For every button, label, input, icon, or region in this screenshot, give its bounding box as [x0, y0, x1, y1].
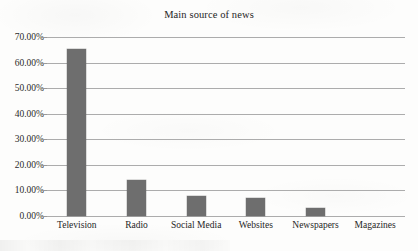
plot-area [47, 37, 405, 216]
gridline [47, 139, 405, 140]
gridline [47, 63, 405, 64]
x-axis-tick-label: Newspapers [292, 220, 338, 230]
bar-websites [246, 198, 265, 216]
bar-newspapers [306, 208, 325, 216]
bar-television [67, 49, 86, 216]
y-axis-tick-label: 20.00% [0, 160, 44, 170]
gridline [47, 88, 405, 89]
gridline [47, 216, 405, 217]
gridline [47, 114, 405, 115]
y-axis-tick-label: 70.00% [0, 32, 44, 42]
x-axis-tick-label: Television [57, 220, 96, 230]
chart-page: Main source of news 0.00%10.00%20.00%30.… [0, 0, 418, 251]
x-axis-tick-label: Social Media [171, 220, 221, 230]
chart-title: Main source of news [0, 9, 418, 20]
y-axis-tick-label: 0.00% [0, 211, 44, 221]
gridline [47, 190, 405, 191]
y-axis-tick-label: 50.00% [0, 83, 44, 93]
scan-artifact [0, 240, 230, 251]
bar-social-media [187, 196, 206, 216]
y-axis-tick-label: 30.00% [0, 134, 44, 144]
x-axis-tick-label: Magazines [355, 220, 396, 230]
bar-radio [127, 180, 146, 216]
y-axis-tick-label: 10.00% [0, 185, 44, 195]
x-axis-tick-label: Radio [125, 220, 148, 230]
y-axis-tick-label: 60.00% [0, 58, 44, 68]
x-axis-tick-label: Websites [239, 220, 273, 230]
y-axis-tick-label: 40.00% [0, 109, 44, 119]
gridline [47, 37, 405, 38]
gridline [47, 165, 405, 166]
